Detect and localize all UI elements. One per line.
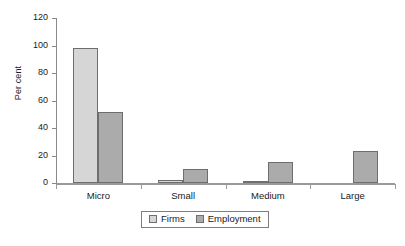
legend-item-employment[interactable]: Employment bbox=[196, 214, 261, 224]
x-label-medium: Medium bbox=[228, 190, 308, 201]
bar-group bbox=[328, 18, 378, 183]
x-label-micro: Micro bbox=[58, 190, 138, 201]
x-tick-mark bbox=[226, 184, 227, 189]
legend-swatch-employment-icon bbox=[196, 215, 204, 223]
x-label-small: Small bbox=[143, 190, 223, 201]
x-tick-mark bbox=[310, 184, 311, 189]
y-tick-label: 0 bbox=[20, 178, 48, 187]
bar-small-employment bbox=[183, 169, 208, 183]
bar-group bbox=[158, 18, 208, 183]
bar-group bbox=[73, 18, 123, 183]
bar-chart: Per cent 020406080100120 MicroSmallMediu… bbox=[0, 0, 405, 246]
y-tick-label: 120 bbox=[20, 13, 48, 22]
y-tick-label: 20 bbox=[20, 151, 48, 160]
bar-small-firms bbox=[158, 180, 183, 183]
x-label-large: Large bbox=[313, 190, 393, 201]
legend-label-firms: Firms bbox=[161, 214, 185, 224]
legend-swatch-firms-icon bbox=[149, 215, 157, 223]
bar-group bbox=[243, 18, 293, 183]
bar-micro-employment bbox=[98, 112, 123, 184]
y-tick-label: 80 bbox=[20, 68, 48, 77]
y-axis-label: Per cent bbox=[13, 48, 23, 118]
bar-medium-firms bbox=[243, 181, 268, 183]
bar-medium-employment bbox=[268, 162, 293, 183]
y-tick-label: 40 bbox=[20, 123, 48, 132]
plot-area bbox=[56, 18, 395, 183]
bar-large-employment bbox=[353, 151, 378, 183]
y-tick-label: 100 bbox=[20, 41, 48, 50]
legend-item-firms[interactable]: Firms bbox=[149, 214, 185, 224]
legend-label-employment: Employment bbox=[208, 214, 261, 224]
x-tick-mark bbox=[395, 184, 396, 189]
y-tick-label: 60 bbox=[20, 96, 48, 105]
chart-legend: Firms Employment bbox=[141, 211, 269, 228]
x-tick-mark bbox=[141, 184, 142, 189]
x-tick-mark bbox=[56, 184, 57, 189]
bar-micro-firms bbox=[73, 48, 98, 183]
